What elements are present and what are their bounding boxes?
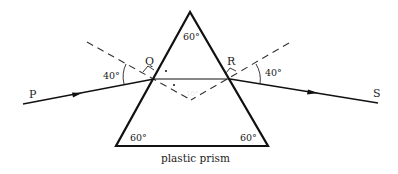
emergent-ray	[230, 79, 378, 103]
angle-dot-lower	[173, 84, 175, 86]
incidence-angle-label: 40°	[103, 70, 120, 81]
faint-angle-label: 10°	[186, 90, 198, 98]
label-q: Q	[145, 55, 154, 68]
label-p: P	[29, 88, 37, 101]
prism-caption: plastic prism	[161, 152, 230, 164]
incident-arrow-icon	[72, 93, 82, 98]
incidence-angle-arc	[123, 64, 126, 84]
bottom-right-angle-label: 60°	[240, 132, 257, 143]
label-r: R	[227, 55, 236, 68]
angle-dot-upper	[165, 70, 167, 72]
incident-ray	[23, 79, 154, 104]
diagram-canvas: P Q R S 60° 60° 60° 40° 40° 10° plastic …	[0, 0, 398, 174]
apex-angle-label: 60°	[183, 31, 200, 42]
emergent-arrow-icon	[307, 90, 318, 95]
emergence-angle-label: 40°	[265, 67, 282, 78]
emergence-angle-arc	[256, 64, 260, 84]
label-s: S	[373, 87, 381, 100]
right-angle-marker-r	[226, 68, 236, 73]
prism-diagram: P Q R S 60° 60° 60° 40° 40° 10° plastic …	[0, 0, 398, 174]
bottom-left-angle-label: 60°	[130, 132, 147, 143]
